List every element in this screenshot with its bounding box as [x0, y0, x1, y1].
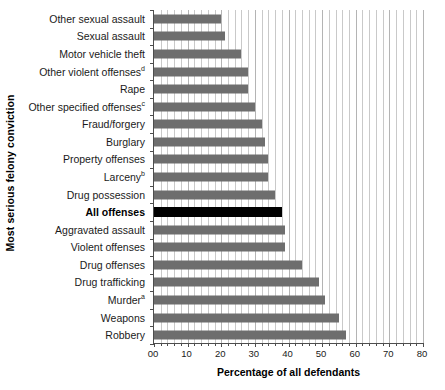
bar [154, 173, 268, 182]
x-tick-label-row: 001020304050607080 [153, 348, 424, 361]
gridline [376, 10, 377, 343]
gridline [289, 10, 290, 343]
x-axis-tick [181, 343, 182, 346]
y-axis-tick [150, 133, 154, 134]
category-label: Burglary [106, 137, 145, 148]
category-label-column: Other sexual assaultSexual assaultMotor … [18, 10, 149, 344]
bar [154, 313, 339, 322]
x-axis-tick [208, 343, 209, 346]
y-axis-tick [150, 28, 154, 29]
category-footnote-marker: a [141, 293, 145, 300]
x-axis-tick [369, 343, 370, 346]
x-axis-tick [289, 343, 290, 347]
gridline [410, 10, 411, 343]
x-axis-tick [423, 343, 424, 347]
category-label: Larcenyb [104, 172, 145, 183]
x-axis-tick [154, 343, 155, 347]
gridline [403, 10, 404, 343]
x-tick-label: 60 [349, 348, 360, 359]
x-axis-tick [356, 343, 357, 347]
x-tick-label: 70 [383, 348, 394, 359]
x-axis-tick [282, 343, 283, 346]
y-axis-tick [150, 221, 154, 222]
plot-area [153, 10, 424, 344]
gridline [416, 10, 417, 343]
x-axis-tick [201, 343, 202, 346]
x-axis-tick [302, 343, 303, 346]
y-axis-title: Most serious felony conviction [2, 0, 18, 345]
y-axis-tick [150, 80, 154, 81]
category-label: Other violent offensesd [39, 66, 145, 77]
x-axis-tick [221, 343, 222, 347]
bar [154, 137, 265, 146]
gridline [356, 10, 357, 343]
category-footnote-marker: c [142, 100, 146, 107]
x-axis-tick [342, 343, 343, 346]
x-axis-tick [329, 343, 330, 346]
gridline [342, 10, 343, 343]
chart-figure: Most serious felony conviction Other sex… [0, 0, 445, 390]
x-axis-tick [336, 343, 337, 346]
bar [154, 207, 282, 217]
gridline [349, 10, 350, 343]
category-label: Violent offenses [71, 242, 145, 253]
x-axis-tick [268, 343, 269, 346]
x-axis-tick [241, 343, 242, 346]
x-tick-label: 50 [316, 348, 327, 359]
gridline [309, 10, 310, 343]
gridline [329, 10, 330, 343]
gridline [315, 10, 316, 343]
gridline [396, 10, 397, 343]
bar [154, 225, 285, 234]
gridline [322, 10, 323, 343]
x-axis-tick [215, 343, 216, 346]
y-axis-tick [150, 10, 154, 11]
x-axis-tick [389, 343, 390, 347]
bar [154, 331, 346, 340]
x-tick-label: 40 [282, 348, 293, 359]
bar [154, 14, 221, 23]
y-axis-tick [150, 274, 154, 275]
y-axis-tick [150, 115, 154, 116]
category-label: Aggravated assault [55, 224, 145, 235]
bar [154, 67, 248, 76]
y-axis-tick [150, 326, 154, 327]
category-label: Weapons [101, 312, 145, 323]
category-label: Rape [120, 84, 145, 95]
x-axis-tick [376, 343, 377, 346]
y-axis-tick [150, 151, 154, 152]
bar [154, 296, 325, 305]
y-axis-tick [150, 203, 154, 204]
x-axis-tick [228, 343, 229, 346]
y-axis-tick [150, 186, 154, 187]
x-axis-tick [248, 343, 249, 346]
bar [154, 120, 262, 129]
gridline [336, 10, 337, 343]
y-axis-tick [150, 239, 154, 240]
x-axis-tick [416, 343, 417, 346]
x-axis-tick [349, 343, 350, 346]
x-axis-tick [295, 343, 296, 346]
x-axis-tick [255, 343, 256, 347]
category-label: Murdera [108, 295, 145, 306]
x-axis-tick [235, 343, 236, 346]
category-label: Fraud/forgery [82, 119, 145, 130]
x-axis-tick [161, 343, 162, 346]
x-tick-label: 10 [181, 348, 192, 359]
category-label: Robbery [105, 330, 145, 341]
category-label: Drug possession [67, 189, 145, 200]
gridline [369, 10, 370, 343]
bar [154, 85, 248, 94]
bar [154, 243, 285, 252]
x-tick-label: 80 [417, 348, 428, 359]
gridline [383, 10, 384, 343]
category-label: Drug offenses [80, 260, 145, 271]
gridline [423, 10, 424, 343]
gridline [295, 10, 296, 343]
y-axis-title-text: Most serious felony conviction [4, 94, 16, 251]
category-footnote-marker: b [141, 170, 145, 177]
x-axis-tick [194, 343, 195, 346]
x-axis-tick [188, 343, 189, 347]
bar [154, 190, 275, 199]
y-axis-tick [150, 291, 154, 292]
